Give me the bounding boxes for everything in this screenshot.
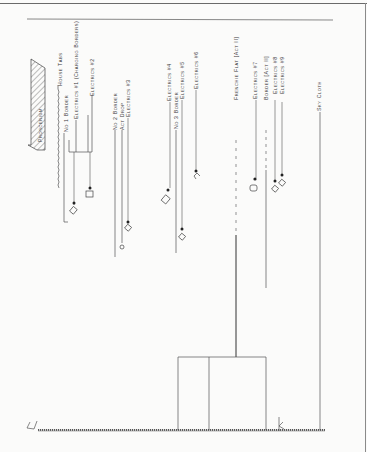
label-electrics-2: Electrics #2 xyxy=(89,58,95,96)
label-electrics-6: Electrics #6 xyxy=(193,51,199,89)
label-border-1: No 1 Border xyxy=(63,95,69,132)
label-electrics-9: Electrics #9 xyxy=(279,56,285,94)
label-house-tabs: House Tabs xyxy=(57,52,63,86)
lamp-fixture xyxy=(86,191,93,197)
label-border-2: No 2 Border xyxy=(112,93,118,130)
border-1-line xyxy=(64,133,68,222)
label-proscenium: Proscenium xyxy=(37,108,43,142)
set-platform xyxy=(178,357,266,430)
label-electrics-3: Electrics #3 xyxy=(125,79,131,117)
label-electrics-5: Electrics #5 xyxy=(179,61,185,99)
act-drop-pipe xyxy=(120,245,124,249)
label-french-flat: Frenchie Flat [Act II] xyxy=(233,37,239,100)
lamp-fixture xyxy=(70,206,78,214)
label-electrics-7: Electrics #7 xyxy=(252,61,258,99)
lamp-clamp xyxy=(73,202,76,205)
house-tabs-line xyxy=(58,85,59,188)
label-sky-cloth: Sky Cloth xyxy=(316,81,322,111)
drawing-page: Proscenium House Tabs No 1 Border Electr… xyxy=(0,0,367,452)
floor-mark-right xyxy=(279,417,284,431)
label-electrics-4: Electrics #4 xyxy=(166,63,172,101)
label-border-act-2: Border [Act II] xyxy=(263,56,269,100)
floor-end-mark-left xyxy=(27,421,37,429)
label-electrics-8: Electrics #8 xyxy=(272,56,278,94)
label-electrics-1: Electrics #1 (Charging Borders) xyxy=(73,21,79,119)
